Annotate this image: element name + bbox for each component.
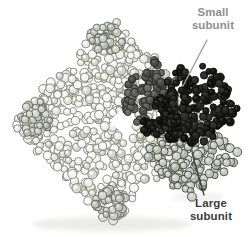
small-subunit-label-line2: subunit: [176, 19, 250, 32]
large-subunit-label-line1: Large: [178, 197, 244, 210]
small-subunit-label: Small subunit: [176, 6, 250, 31]
molecular-structure-figure: Small subunit Large subunit: [0, 0, 250, 237]
large-subunit-label-line2: subunit: [178, 210, 244, 223]
small-subunit-label-line1: Small: [176, 6, 250, 19]
large-subunit-label: Large subunit: [178, 197, 244, 222]
